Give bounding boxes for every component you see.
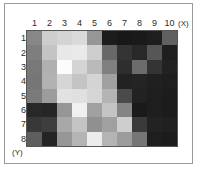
heatmap-cell: [72, 103, 87, 117]
heatmap-cell: [87, 89, 102, 103]
heatmap-cell: [87, 103, 102, 117]
heatmap-cell: [72, 89, 87, 103]
heatmap-cell: [117, 31, 132, 45]
heatmap-cell: [27, 132, 42, 146]
heatmap-cell: [87, 132, 102, 146]
heatmap-cell: [132, 103, 147, 117]
heatmap-cell: [42, 74, 57, 88]
y-tick-label: 4: [13, 74, 26, 88]
heatmap-cell: [162, 45, 177, 59]
y-tick-label: 2: [13, 45, 26, 59]
y-tick-label: 3: [13, 60, 26, 74]
heatmap-cell: [102, 60, 117, 74]
x-tick-label: 6: [102, 17, 117, 30]
heatmap-cell: [72, 45, 87, 59]
heatmap-cell: [27, 45, 42, 59]
heatmap-grid: [27, 31, 177, 146]
x-axis-tick-labels: 12345678910: [27, 17, 177, 30]
heatmap-cell: [147, 89, 162, 103]
heatmap-cell: [132, 89, 147, 103]
heatmap-cell: [147, 103, 162, 117]
heatmap-cell: [132, 60, 147, 74]
heatmap-cell: [57, 31, 72, 45]
x-tick-label: 2: [42, 17, 57, 30]
heatmap-cell: [102, 45, 117, 59]
heatmap-cell: [117, 74, 132, 88]
x-tick-label: 5: [87, 17, 102, 30]
heatmap-cell: [162, 74, 177, 88]
heatmap-cell: [27, 74, 42, 88]
heatmap-cell: [162, 31, 177, 45]
figure-frame: 12345678910 (X) 12345678 (Y): [4, 3, 193, 164]
heatmap-cell: [87, 31, 102, 45]
heatmap-cell: [147, 132, 162, 146]
y-axis-tick-labels: 12345678: [13, 31, 26, 146]
heatmap-cell: [102, 103, 117, 117]
heatmap-cell: [147, 45, 162, 59]
heatmap-cell: [72, 31, 87, 45]
x-tick-label: 9: [147, 17, 162, 30]
x-tick-label: 7: [117, 17, 132, 30]
heatmap-cell: [87, 60, 102, 74]
heatmap-cell: [147, 117, 162, 131]
heatmap-cell: [102, 117, 117, 131]
heatmap-cell: [162, 60, 177, 74]
heatmap-cell: [27, 89, 42, 103]
heatmap-cell: [72, 60, 87, 74]
y-tick-label: 7: [13, 117, 26, 131]
heatmap-cell: [57, 132, 72, 146]
heatmap-cell: [117, 89, 132, 103]
heatmap-cell: [102, 132, 117, 146]
heatmap-cell: [147, 31, 162, 45]
heatmap-cell: [147, 74, 162, 88]
heatmap-cell: [102, 89, 117, 103]
x-tick-label: 8: [132, 17, 147, 30]
heatmap-cell: [42, 117, 57, 131]
y-tick-label: 5: [13, 89, 26, 103]
heatmap-cell: [57, 74, 72, 88]
heatmap-cell: [57, 45, 72, 59]
heatmap-cell: [102, 31, 117, 45]
y-tick-label: 8: [13, 132, 26, 146]
heatmap-cell: [117, 117, 132, 131]
heatmap-cell: [42, 31, 57, 45]
heatmap-cell: [57, 89, 72, 103]
heatmap-cell: [72, 74, 87, 88]
x-tick-label: 3: [57, 17, 72, 30]
heatmap-cell: [87, 45, 102, 59]
heatmap-cell: [132, 117, 147, 131]
heatmap-cell: [117, 60, 132, 74]
heatmap-cell: [117, 45, 132, 59]
heatmap-cell: [27, 103, 42, 117]
y-axis-title: (Y): [12, 148, 23, 157]
heatmap-cell: [42, 45, 57, 59]
x-tick-label: 1: [27, 17, 42, 30]
heatmap-cell: [162, 117, 177, 131]
heatmap-cell: [117, 132, 132, 146]
heatmap-cell: [132, 31, 147, 45]
heatmap-cell: [132, 45, 147, 59]
heatmap-cell: [57, 60, 72, 74]
heatmap-cell: [132, 74, 147, 88]
heatmap-cell: [42, 60, 57, 74]
heatmap-cell: [87, 74, 102, 88]
heatmap-cell: [27, 31, 42, 45]
x-axis-title: (X): [178, 17, 189, 30]
heatmap-cell: [42, 103, 57, 117]
heatmap-cell: [132, 132, 147, 146]
heatmap-cell: [117, 103, 132, 117]
heatmap-cell: [27, 117, 42, 131]
heatmap-cell: [42, 89, 57, 103]
heatmap-cell: [162, 132, 177, 146]
x-tick-label: 4: [72, 17, 87, 30]
heatmap-cell: [72, 132, 87, 146]
heatmap-cell: [27, 60, 42, 74]
grayscale-grid-figure: 12345678910 (X) 12345678 (Y): [0, 0, 197, 169]
heatmap-cell: [57, 103, 72, 117]
heatmap-cell: [42, 132, 57, 146]
heatmap-cell: [162, 103, 177, 117]
heatmap-cell: [147, 60, 162, 74]
heatmap-cell: [102, 74, 117, 88]
heatmap-cell: [57, 117, 72, 131]
heatmap-cell: [162, 89, 177, 103]
